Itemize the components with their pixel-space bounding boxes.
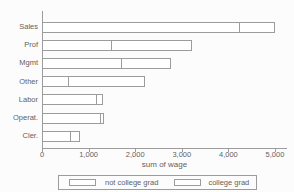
category-label: Sales bbox=[0, 22, 38, 32]
category-label: Operat. bbox=[0, 113, 38, 123]
x-tick-label: 4,000 bbox=[213, 151, 243, 159]
bar-segment-not-college-grad bbox=[42, 40, 112, 51]
legend: not college grad college grad bbox=[58, 175, 257, 190]
category-label: Mgmt bbox=[0, 58, 38, 68]
category-label: Labor bbox=[0, 95, 38, 105]
x-axis-line bbox=[42, 148, 287, 149]
legend-swatch-not-college-grad bbox=[69, 179, 96, 186]
x-tick-label: 0 bbox=[27, 151, 57, 159]
legend-label-not-college-grad: not college grad bbox=[105, 178, 158, 187]
bar-segment-college-grad bbox=[100, 113, 103, 124]
bar-segment-not-college-grad bbox=[42, 94, 97, 105]
bar-segment-college-grad bbox=[68, 76, 145, 87]
x-tick-label: 1,000 bbox=[74, 151, 104, 159]
category-label: Other bbox=[0, 77, 38, 87]
x-axis-title: sum of wage bbox=[42, 160, 287, 169]
x-tick-label: 2,000 bbox=[120, 151, 150, 159]
bar-segment-not-college-grad bbox=[42, 113, 101, 124]
x-tick-label: 5,000 bbox=[260, 151, 290, 159]
bar-segment-college-grad bbox=[70, 131, 80, 142]
legend-label-college-grad: college grad bbox=[208, 178, 249, 187]
bar-segment-college-grad bbox=[111, 40, 192, 51]
bar-segment-college-grad bbox=[239, 22, 275, 33]
category-label: Cler. bbox=[0, 131, 38, 141]
stacked-bar-chart: SalesProfMgmtOtherLaborOperat.Cler.01,00… bbox=[0, 0, 294, 192]
bar-segment-college-grad bbox=[121, 58, 171, 69]
bar-segment-college-grad bbox=[96, 94, 103, 105]
bar-segment-not-college-grad bbox=[42, 76, 69, 87]
bar-segment-not-college-grad bbox=[42, 131, 71, 142]
bar-segment-not-college-grad bbox=[42, 22, 240, 33]
x-tick-label: 3,000 bbox=[167, 151, 197, 159]
bar-segment-not-college-grad bbox=[42, 58, 122, 69]
legend-swatch-college-grad bbox=[174, 179, 201, 186]
category-label: Prof bbox=[0, 40, 38, 50]
